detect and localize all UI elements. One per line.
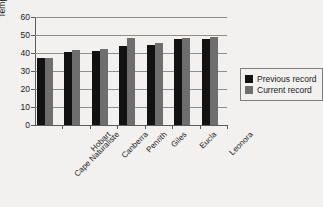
bar-prev <box>202 39 210 125</box>
x-tick-label: Giles <box>170 130 189 149</box>
bar-prev <box>147 45 155 125</box>
bar-prev <box>119 46 127 125</box>
chart-legend: Previous record Current record <box>240 68 323 101</box>
legend-label-previous-record: Previous record <box>257 74 317 84</box>
bar-group <box>172 17 199 125</box>
legend-swatch-current-record <box>245 86 253 94</box>
bar-group <box>117 17 144 125</box>
y-tick-label: 0 <box>25 121 30 130</box>
x-tick-label: Penrith <box>144 130 168 154</box>
x-tick-mark <box>145 125 146 129</box>
plot-area <box>35 17 227 125</box>
y-axis-title: Temperature (°C) <box>0 0 7 40</box>
bar-curr <box>100 49 108 125</box>
x-tick-label: Eucla <box>198 130 219 151</box>
bar-curr <box>72 50 80 125</box>
legend-item: Current record <box>245 85 317 95</box>
y-tick-label: 20 <box>21 85 30 94</box>
y-axis-tick-labels: 0102030405060 <box>12 0 30 207</box>
bar-curr <box>155 43 163 125</box>
bar-group <box>145 17 172 125</box>
bar-prev <box>174 39 182 125</box>
x-tick-mark <box>90 125 91 129</box>
x-tick-mark <box>227 125 228 129</box>
x-axis-line <box>35 125 227 126</box>
bar-curr <box>182 38 190 125</box>
y-tick-mark <box>31 125 35 126</box>
y-tick-label: 30 <box>21 67 30 76</box>
bar-group <box>200 17 227 125</box>
x-tick-label: Cape Naturaliste <box>72 130 121 179</box>
bar-curr <box>127 38 135 125</box>
legend-label-current-record: Current record <box>257 85 312 95</box>
bar-prev <box>92 51 100 125</box>
y-tick-label: 60 <box>21 13 30 22</box>
x-tick-mark <box>200 125 201 129</box>
x-tick-label: Leonora <box>228 130 255 157</box>
legend-swatch-previous-record <box>245 75 253 83</box>
y-tick-label: 50 <box>21 31 30 40</box>
bar-prev <box>64 52 72 125</box>
x-tick-mark <box>172 125 173 129</box>
bar-group <box>62 17 89 125</box>
y-tick-label: 10 <box>21 103 30 112</box>
bar-group <box>90 17 117 125</box>
x-tick-mark <box>62 125 63 129</box>
bar-curr <box>45 58 53 126</box>
legend-item: Previous record <box>245 74 317 84</box>
y-tick-label: 40 <box>21 49 30 58</box>
bar-group <box>35 17 62 125</box>
x-tick-mark <box>117 125 118 129</box>
bar-prev <box>37 58 45 125</box>
x-tick-label: Canberra <box>119 130 149 160</box>
bar-curr <box>210 37 218 125</box>
